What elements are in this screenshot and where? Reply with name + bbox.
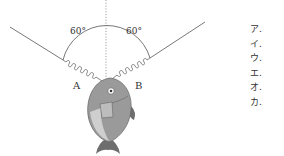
- spring-fish-diagram: 60° 60° A B: [0, 0, 284, 156]
- option-e: エ.: [250, 66, 262, 81]
- left-wire: [10, 27, 63, 60]
- angle-right-label: 60°: [126, 26, 142, 36]
- fish-icon: [88, 78, 135, 154]
- option-u: ウ.: [250, 51, 262, 66]
- option-i: イ.: [250, 37, 262, 52]
- spring-b: [111, 58, 150, 80]
- spring-a: [63, 60, 102, 81]
- option-a: ア.: [250, 22, 262, 37]
- option-o: オ.: [250, 80, 262, 95]
- spring-b-label: B: [135, 80, 142, 91]
- right-wire: [150, 22, 205, 58]
- answer-options: ア. イ. ウ. エ. オ. カ.: [250, 22, 262, 110]
- option-ka: カ.: [250, 95, 262, 110]
- spring-a-label: A: [72, 80, 81, 91]
- angle-left-label: 60°: [70, 26, 86, 36]
